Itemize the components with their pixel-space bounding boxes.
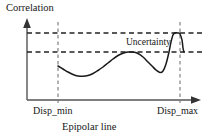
x-tick-label-disp-min: Disp_min xyxy=(33,106,72,116)
y-axis-label: Correlation xyxy=(6,3,54,14)
x-axis-label: Epipolar line xyxy=(62,122,117,133)
y-axis-arrowhead-icon xyxy=(23,18,31,28)
x-axis-arrowhead-icon xyxy=(191,96,201,103)
correlation-epipolar-figure: Correlation Epipolar line Disp_min Disp_… xyxy=(0,0,216,136)
uncertainty-annotation: Uncertainty xyxy=(126,38,171,48)
x-tick-label-disp-max: Disp_max xyxy=(157,106,198,116)
